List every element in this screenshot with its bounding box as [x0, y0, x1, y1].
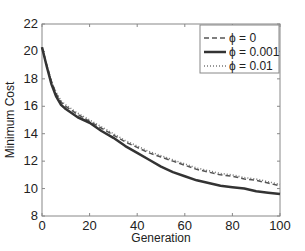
- x-axis-label: Generation: [131, 231, 190, 245]
- y-tick-label: 16: [24, 98, 38, 113]
- x-tick-label: 0: [38, 218, 45, 233]
- x-tick-label: 80: [225, 218, 239, 233]
- y-tick-label: 10: [24, 181, 38, 196]
- y-tick-label: 14: [24, 126, 38, 141]
- y-tick-label: 8: [31, 208, 38, 223]
- line-chart: 810121416182022 020406080100 Generation …: [0, 0, 305, 251]
- y-tick-label: 18: [24, 71, 38, 86]
- y-tick-label: 22: [24, 16, 38, 31]
- legend-label: ϕ = 0.001: [229, 45, 280, 59]
- x-tick-label: 100: [269, 218, 291, 233]
- y-tick-label: 20: [24, 43, 38, 58]
- x-tick-label: 20: [82, 218, 96, 233]
- legend-label: ϕ = 0.01: [229, 59, 273, 73]
- y-axis-label: Minimum Cost: [3, 81, 17, 158]
- y-tick-label: 12: [24, 153, 38, 168]
- legend-label: ϕ = 0: [229, 31, 256, 45]
- legend: ϕ = 0ϕ = 0.001ϕ = 0.01: [200, 25, 280, 73]
